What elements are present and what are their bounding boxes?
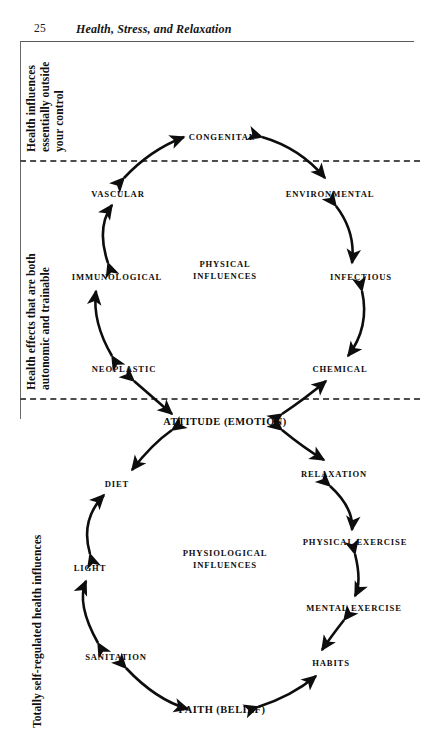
header-rule — [20, 41, 414, 42]
divider-lower — [20, 398, 420, 400]
node-diet: DIET — [105, 479, 129, 489]
hub-attitude-emotion: ATTITUDE (EMOTION) — [163, 416, 286, 427]
node-neoplastic: NEOPLASTIC — [92, 364, 156, 374]
arrow-hub-relaxation — [282, 430, 324, 460]
arrow-hub-diet — [132, 430, 172, 470]
node-chemical: CHEMICAL — [312, 364, 367, 374]
band-label-uncontrollable-influences: Health influences essentially outside yo… — [24, 62, 66, 152]
arrow-neoplastic-immunological — [95, 291, 112, 356]
arrow-infectious-chemical — [348, 291, 364, 356]
arrow-congenital-environmental — [262, 137, 325, 178]
node-immunological: IMMUNOLOGICAL — [72, 272, 162, 282]
page-canvas: 25 Health, Stress, and Relaxation Health… — [0, 0, 434, 740]
center-label-physiological-influences: PHYSIOLOGICAL INFLUENCES — [183, 547, 268, 571]
node-relaxation: RELAXATION — [301, 469, 367, 479]
arrow-immunological-vascular — [103, 205, 112, 263]
node-sanitation: SANITATION — [85, 652, 147, 662]
page-title: Health, Stress, and Relaxation — [76, 22, 232, 37]
arrow-relaxation-physical — [330, 486, 352, 530]
arrow-environmental-infectious — [336, 206, 353, 263]
band-label-autonomic-trainable-effects: Health effects that are both autonomic a… — [24, 253, 52, 390]
node-mental-exercise: MENTAL EXERCISE — [306, 603, 401, 613]
divider-upper — [20, 160, 420, 162]
node-habits: HABITS — [312, 658, 350, 668]
node-vascular: VASCULAR — [91, 189, 144, 199]
arrow-vascular-congenital — [124, 137, 184, 178]
arrow-faith-habits — [258, 676, 316, 707]
arrow-mental-habits — [322, 620, 344, 650]
node-light: LIGHT — [74, 563, 106, 573]
node-physical-exercise: PHYSICAL EXERCISE — [303, 537, 407, 547]
node-congenital: CONGENITAL — [189, 132, 256, 142]
arrow-physical-mental — [355, 554, 359, 596]
node-infectious: INFECTIOUS — [330, 272, 392, 282]
page-number: 25 — [34, 22, 46, 34]
node-faith-belief: FAITH (BELIEF) — [179, 704, 266, 715]
left-vertical-rule — [20, 41, 21, 419]
center-label-physical-influences: PHYSICAL INFLUENCES — [193, 258, 257, 282]
arrow-sanitation-light — [83, 581, 98, 643]
running-head: 25 Health, Stress, and Relaxation — [20, 22, 414, 40]
arrow-light-diet — [87, 495, 104, 554]
band-label-self-regulated-influences: Totally self-regulated health influences — [30, 535, 44, 728]
node-environmental: ENVIRONMENTAL — [286, 189, 375, 199]
